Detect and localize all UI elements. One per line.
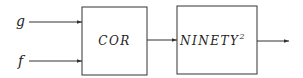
block-ninety-name: NINETY [179, 34, 239, 48]
block-cor-label: COR [98, 34, 131, 48]
input-label-g: g [16, 13, 25, 29]
block-diagram: g f COR NINETY2 [0, 0, 303, 78]
block-ninety-superscript: 2 [238, 32, 246, 41]
input-label-f: f [17, 53, 26, 69]
block-ninety-label: NINETY2 [179, 32, 246, 48]
